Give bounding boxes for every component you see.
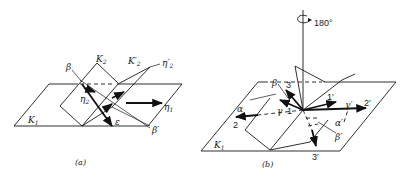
label-beta-b: β	[271, 78, 277, 88]
label-beta-prime-a: β′	[151, 125, 159, 135]
axis-3-prime-arrow	[312, 130, 316, 146]
label-axis-1: 1	[287, 106, 292, 116]
label-alpha-prime: α′	[335, 118, 343, 128]
eta2-prime-leader	[150, 64, 160, 67]
label-eta2: η2	[80, 94, 89, 105]
label-eta1: η1	[164, 102, 173, 113]
label-gamma: γ	[277, 106, 283, 116]
label-gamma-prime: γ′	[345, 100, 352, 110]
alpha-prime-leader	[344, 110, 348, 122]
beta-leader	[72, 70, 82, 82]
panel-a: K1 K2 K′2 η′2 η1 η2 β β′ ε (a)	[14, 54, 182, 167]
label-axis-1-prime: 1′	[327, 92, 334, 102]
k1-plane-b	[201, 82, 396, 151]
caption-a: (a)	[75, 158, 86, 167]
label-k2-prime: K′2	[127, 56, 141, 67]
label-alpha: α	[237, 104, 243, 114]
label-k2: K2	[95, 54, 107, 65]
label-axis-3: 3	[286, 80, 291, 90]
label-beta-a: β	[65, 62, 71, 72]
panel-b: 180°	[201, 10, 396, 169]
label-epsilon: ε	[115, 117, 120, 127]
label-rotation: 180°	[314, 18, 333, 28]
label-k1-a: K1	[27, 115, 39, 126]
beta-prime-leader	[318, 122, 336, 133]
label-k1-b: K1	[213, 140, 225, 151]
label-axis-3-prime: 3′	[312, 152, 319, 162]
label-axis-2: 2	[233, 120, 238, 130]
label-axis-2-prime: 2′	[364, 98, 371, 108]
twinning-figure: K1 K2 K′2 η′2 η1 η2 β β′ ε (a) 180°	[0, 0, 406, 177]
shear-vector	[82, 84, 112, 126]
alpha-leader	[250, 94, 276, 100]
caption-b: (b)	[262, 160, 273, 169]
label-beta-prime-b: β′	[334, 132, 342, 142]
axis-2-arrow	[236, 115, 258, 117]
label-eta2-prime: η′2	[162, 58, 173, 69]
